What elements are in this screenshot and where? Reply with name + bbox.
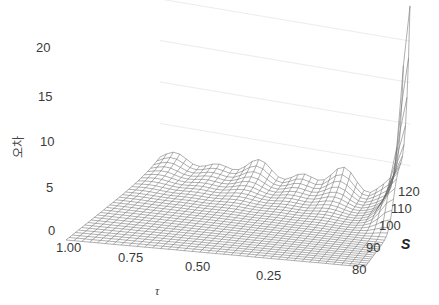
x-axis-label: τ <box>155 284 159 299</box>
x-tick-0.50: 0.50 <box>185 259 210 274</box>
s-tick-100: 100 <box>379 218 401 233</box>
z-tick-0: 0 <box>48 223 55 238</box>
s-tick-80: 80 <box>352 262 366 277</box>
z-tick-20: 20 <box>36 40 50 55</box>
x-tick-0.75: 0.75 <box>118 250 143 265</box>
x-tick-1.00: 1.00 <box>56 240 81 255</box>
x-tick-0.25: 0.25 <box>256 268 281 283</box>
surface-plot <box>0 0 439 305</box>
back-gridlines <box>160 0 410 166</box>
z-tick-15: 15 <box>38 89 52 104</box>
z-axis-label: 오차 <box>9 136 26 158</box>
s-axis-label: S <box>401 236 410 252</box>
s-tick-120: 120 <box>398 184 420 199</box>
s-tick-110: 110 <box>391 201 412 216</box>
z-tick-5: 5 <box>46 180 53 195</box>
s-tick-90: 90 <box>366 240 380 255</box>
z-tick-10: 10 <box>40 134 54 149</box>
